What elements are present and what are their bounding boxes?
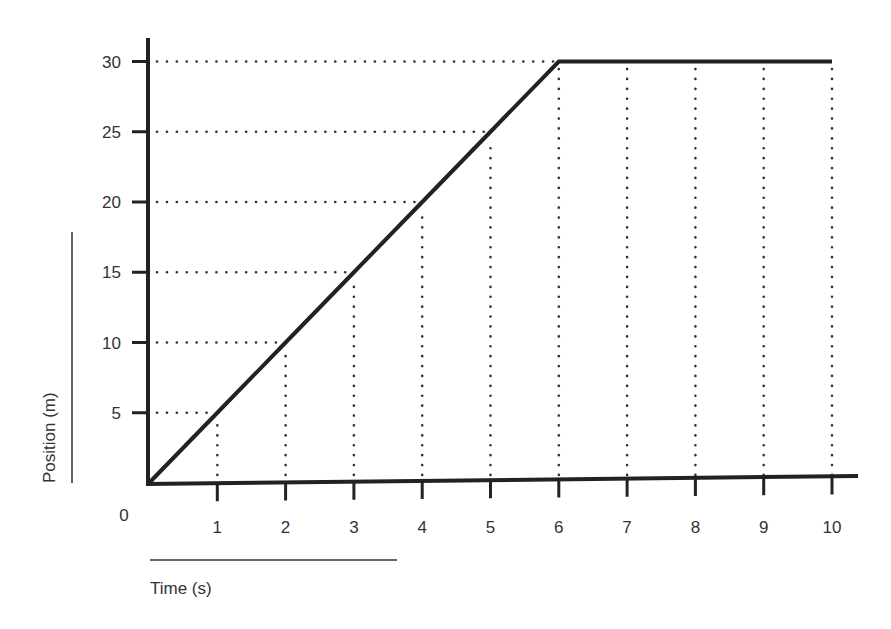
origin-label: 0 — [119, 506, 128, 525]
y-tick-label-25: 25 — [102, 123, 121, 142]
chart-canvas: 5101520253012345678910 Position (m) Time… — [0, 0, 891, 629]
y-tick-label-30: 30 — [102, 53, 121, 72]
y-tick-label-15: 15 — [102, 263, 121, 282]
y-tick-label-20: 20 — [102, 193, 121, 212]
x-tick-label-9: 9 — [759, 518, 768, 537]
x-tick-label-10: 10 — [823, 518, 842, 537]
x-tick-label-5: 5 — [486, 518, 495, 537]
x-tick-label-3: 3 — [349, 518, 358, 537]
y-tick-label-5: 5 — [112, 404, 121, 423]
x-tick-label-8: 8 — [691, 518, 700, 537]
y-axis-title: Position (m) — [40, 392, 59, 483]
position-line — [149, 62, 832, 484]
x-tick-label-2: 2 — [281, 518, 290, 537]
tick-marks — [132, 62, 832, 502]
y-tick-label-10: 10 — [102, 334, 121, 353]
position-time-chart: 5101520253012345678910 Position (m) Time… — [0, 0, 891, 629]
x-tick-label-4: 4 — [417, 518, 426, 537]
x-axis-line — [146, 476, 858, 484]
axes — [146, 38, 858, 485]
x-axis-title: Time (s) — [150, 579, 212, 598]
tick-labels: 5101520253012345678910 — [102, 53, 841, 538]
x-tick-label-1: 1 — [213, 518, 222, 537]
x-tick-label-6: 6 — [554, 518, 563, 537]
dotted-reference-lines — [157, 62, 832, 476]
data-series — [149, 62, 832, 484]
x-tick-label-7: 7 — [622, 518, 631, 537]
